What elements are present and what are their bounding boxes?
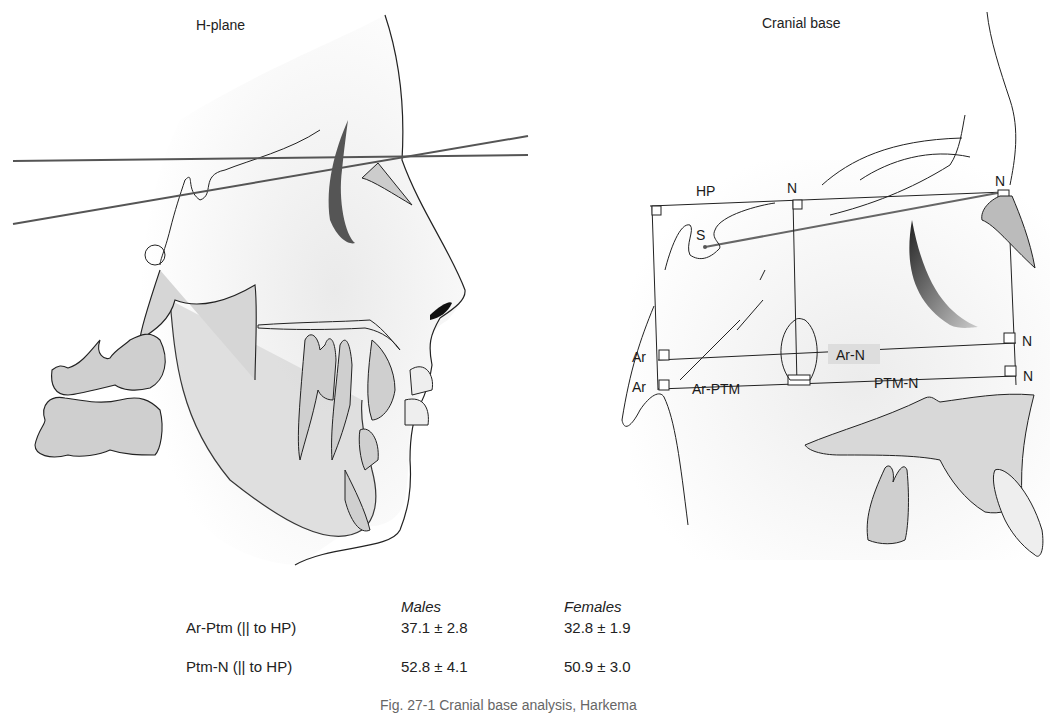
label-n-top-right: N (995, 173, 1005, 189)
figure-caption: Fig. 27-1 Cranial base analysis, Harkema (380, 697, 637, 713)
label-ptm-n: PTM-N (874, 375, 918, 391)
row-ar-ptm-males: 37.1 ± 2.8 (401, 619, 468, 636)
cranial-base-illustration: HP N N S Ar Ar Ar-N Ar-PTM PTM-N N N (0, 0, 1053, 580)
row-ar-ptm-measure: Ar-Ptm (|| to HP) (186, 619, 296, 636)
header-males: Males (401, 598, 441, 615)
row-ptm-n-males: 52.8 ± 4.1 (401, 658, 468, 675)
label-n-mid-right: N (1022, 333, 1032, 349)
label-ar-upper: Ar (632, 349, 646, 365)
label-n-mid: N (787, 180, 797, 196)
row-ptm-n-females: 50.9 ± 3.0 (564, 658, 631, 675)
label-ar-lower: Ar (632, 379, 646, 395)
header-females: Females (564, 598, 622, 615)
label-n-low-right: N (1023, 368, 1033, 384)
label-ar-ptm: Ar-PTM (692, 381, 740, 397)
row-ar-ptm-females: 32.8 ± 1.9 (564, 619, 631, 636)
label-ar-n: Ar-N (836, 347, 865, 363)
row-ptm-n-measure: Ptm-N (|| to HP) (186, 658, 292, 675)
label-hp: HP (696, 183, 715, 199)
label-s: S (696, 227, 705, 243)
